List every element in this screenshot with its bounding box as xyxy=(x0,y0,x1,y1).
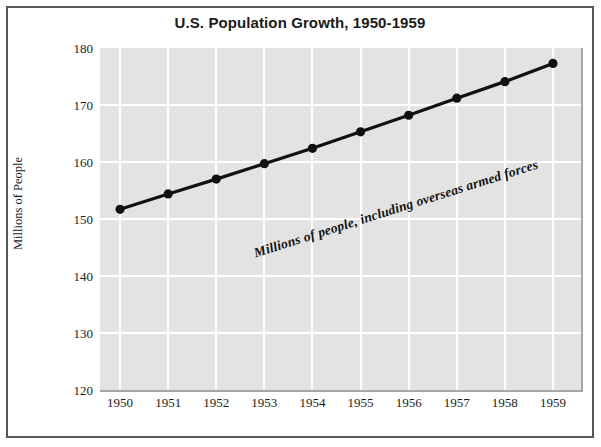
y-tick-label: 140 xyxy=(3,270,93,283)
y-axis-tick-labels: 120130140150160170180 xyxy=(0,0,93,447)
plot-area: Millions of people, including overseas a… xyxy=(100,48,583,392)
chart-title: U.S. Population Growth, 1950-1959 xyxy=(6,14,594,31)
cropped-caption-sliver xyxy=(14,442,414,447)
data-point-marker xyxy=(452,94,461,103)
data-point-marker xyxy=(404,111,413,120)
y-tick-label: 150 xyxy=(3,213,93,226)
data-point-marker xyxy=(115,205,124,214)
y-tick-label: 170 xyxy=(3,99,93,112)
chart-figure: U.S. Population Growth, 1950-1959 Millio… xyxy=(0,0,601,447)
y-tick-label: 180 xyxy=(3,42,93,55)
data-point-marker xyxy=(260,159,269,168)
data-point-marker xyxy=(356,127,365,136)
data-point-marker xyxy=(212,175,221,184)
data-point-marker xyxy=(308,144,317,153)
y-tick-label: 130 xyxy=(3,327,93,340)
x-tick-label: 1959 xyxy=(523,396,583,409)
data-point-marker xyxy=(164,189,173,198)
y-tick-label: 160 xyxy=(3,156,93,169)
x-axis-tick-labels: 1950195119521953195419551956195719581959 xyxy=(0,396,601,416)
data-point-marker xyxy=(548,59,557,68)
data-point-marker xyxy=(500,77,509,86)
